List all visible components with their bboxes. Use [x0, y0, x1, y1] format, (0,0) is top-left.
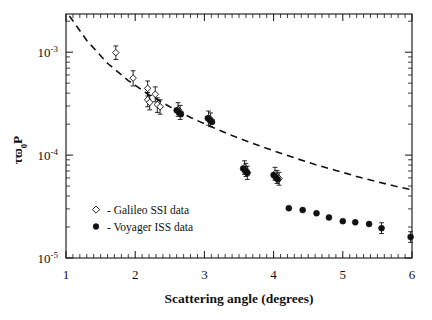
galileo-data-point — [113, 49, 120, 56]
x-tick-label: 2 — [132, 267, 139, 282]
x-tick-label: 1 — [63, 267, 70, 282]
y-axis-title: τϖ0P — [10, 136, 29, 165]
voyager-data-point — [178, 111, 184, 117]
voyager-data-point — [244, 170, 250, 176]
voyager-data-point — [408, 234, 414, 240]
legend-label-voyager: - Voyager ISS data — [107, 221, 193, 234]
y-axis-tick-labels: 10-310-410-5 — [38, 44, 59, 266]
legend-marker-filled-circle — [93, 224, 99, 230]
scatter-plot-figure: 123456 10-310-410-5 - Galileo SSI data -… — [0, 0, 432, 320]
legend-marker-open-diamond — [92, 206, 99, 213]
plot-canvas: 123456 10-310-410-5 - Galileo SSI data -… — [0, 0, 432, 320]
galileo-ssi-series — [113, 46, 283, 185]
x-tick-label: 6 — [409, 267, 416, 282]
svg-text:τϖ0P: τϖ0P — [10, 136, 29, 165]
galileo-data-point — [130, 75, 137, 82]
voyager-iss-series — [174, 107, 414, 242]
voyager-data-point — [286, 205, 292, 211]
voyager-data-point — [366, 221, 372, 227]
y-tick-label: 10-3 — [38, 44, 59, 60]
voyager-data-point — [300, 207, 306, 213]
voyager-data-point — [314, 210, 320, 216]
model-dashed-curve — [69, 16, 412, 190]
voyager-data-point — [326, 214, 332, 220]
x-tick-label: 5 — [340, 267, 347, 282]
x-tick-label: 4 — [270, 267, 277, 282]
y-tick-label: 10-5 — [38, 250, 59, 266]
voyager-data-point — [275, 176, 281, 182]
galileo-data-point — [152, 91, 159, 98]
x-axis-title: Scattering angle (degrees) — [165, 291, 314, 306]
galileo-data-point — [144, 85, 151, 92]
voyager-data-point — [340, 218, 346, 224]
legend-label-galileo: - Galileo SSI data — [107, 204, 189, 216]
voyager-data-point — [379, 225, 385, 231]
voyager-data-point — [352, 219, 358, 225]
x-tick-label: 3 — [201, 267, 208, 282]
legend: - Galileo SSI data - Voyager ISS data — [92, 204, 193, 234]
y-axis-title-p: P — [10, 136, 25, 144]
voyager-data-point — [209, 119, 215, 125]
x-axis-tick-labels: 123456 — [63, 267, 416, 282]
y-tick-label: 10-4 — [38, 147, 59, 163]
y-axis-title-omega: ϖ — [10, 148, 25, 158]
